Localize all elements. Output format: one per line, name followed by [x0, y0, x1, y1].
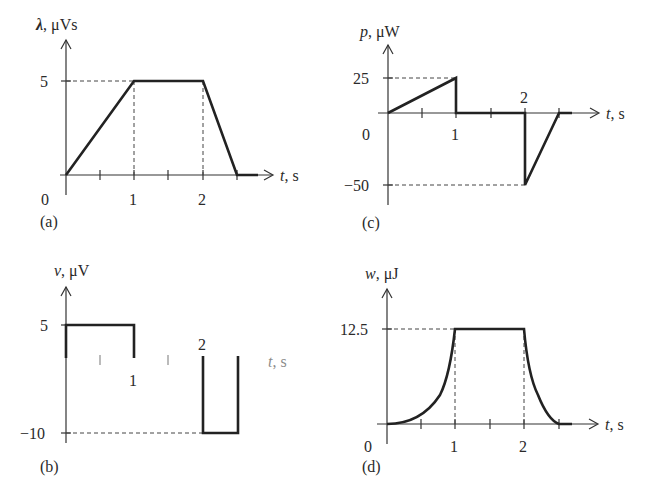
ytick-label: −10 — [20, 425, 45, 442]
xtick-label: 2 — [198, 191, 206, 208]
panel-a-caption: (a) — [40, 213, 58, 231]
origin-label: 0 — [41, 191, 49, 208]
panel-d: w, μJ t, s 12.5 0 1 2 (d) — [340, 265, 624, 476]
xtick-label: 1 — [451, 126, 459, 143]
xtick-label: 2 — [198, 336, 206, 353]
panel-a-ylabel: λ, μVs — [35, 16, 77, 34]
origin-label: 0 — [364, 438, 372, 455]
panel-c-xlabel: t, s — [606, 105, 625, 122]
panel-b-curve-negative — [203, 356, 238, 433]
panel-d-curve — [387, 329, 572, 424]
panel-b-caption: (b) — [40, 458, 59, 476]
panel-b-xlabel: t, s — [268, 353, 287, 370]
ytick-label: 12.5 — [340, 321, 368, 338]
panel-c-caption: (c) — [362, 214, 380, 232]
panel-c-ylabel: p, μW — [359, 23, 401, 41]
panel-a-xlabel: t, s — [280, 167, 299, 184]
panel-b: v, μV t, s 5 −10 1 2 (b) — [20, 262, 287, 476]
xtick-label: 2 — [520, 89, 528, 106]
panel-c: p, μW t, s 25 −50 0 1 2 (c) — [344, 23, 625, 232]
ytick-label: 5 — [40, 317, 48, 334]
ytick-label: 25 — [353, 70, 369, 87]
figure-canvas: λ, μVs t, s 5 0 1 2 (a) p, μW t, s — [0, 0, 659, 494]
panel-d-caption: (d) — [362, 458, 381, 476]
xtick-label: 1 — [129, 191, 137, 208]
ytick-label: 5 — [40, 73, 48, 90]
panel-a-curve — [66, 81, 258, 175]
panel-d-ylabel: w, μJ — [365, 265, 398, 283]
xtick-label: 1 — [129, 372, 137, 389]
xtick-label: 1 — [450, 438, 458, 455]
panel-a: λ, μVs t, s 5 0 1 2 (a) — [35, 16, 299, 231]
panel-d-xlabel: t, s — [605, 416, 624, 433]
panel-b-ylabel: v, μV — [54, 262, 90, 280]
origin-label: 0 — [362, 126, 370, 143]
xtick-label: 2 — [519, 438, 527, 455]
ytick-label: −50 — [344, 177, 369, 194]
panel-b-curve-positive — [66, 325, 134, 358]
panel-c-curve — [388, 78, 572, 185]
